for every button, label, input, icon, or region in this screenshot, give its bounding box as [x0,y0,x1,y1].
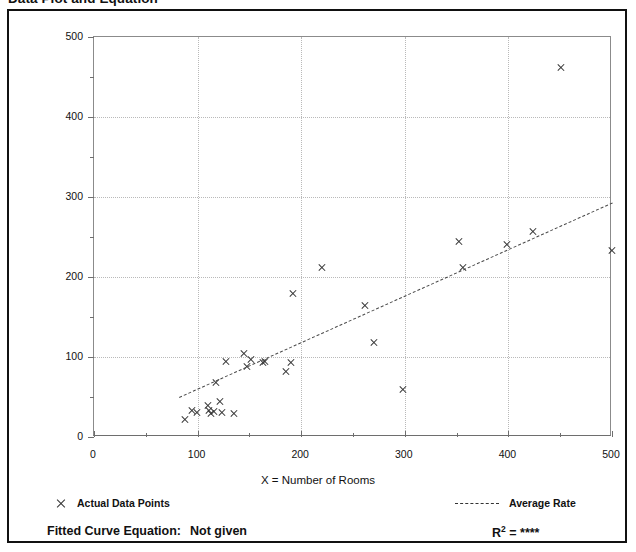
x-axis-tick-label: 100 [167,448,227,460]
x-axis-minor-tick [353,433,354,437]
equation-value: Not given [190,524,247,538]
x-axis-minor-tick [146,433,147,437]
x-axis-tick [301,431,302,437]
y-axis-tick-label: 500 [45,30,83,42]
x-axis-tick-label: 0 [63,448,123,460]
equation-label: Fitted Curve Equation: [47,524,181,538]
data-point-marker [229,409,238,418]
y-axis-tick [88,357,94,358]
x-cross-marker-icon [55,498,66,509]
data-point-marker [192,408,201,417]
x-axis-tick [405,431,406,437]
y-axis-minor-tick [90,317,94,318]
y-axis-tick [88,437,94,438]
fitted-curve-equation: Fitted Curve Equation:Not given [47,524,247,538]
plot-area [93,36,611,436]
data-point-marker [369,338,378,347]
dashed-line-icon [455,503,499,504]
y-axis-minor-tick [90,397,94,398]
x-axis-tick-label: 200 [270,448,330,460]
y-axis-tick-label: 400 [45,110,83,122]
data-point-marker [281,367,290,376]
x-axis-minor-tick [249,433,250,437]
x-axis-tick [94,431,95,437]
legend-label-data-points: Actual Data Points [77,497,170,509]
data-point-marker [317,263,326,272]
data-point-marker [398,385,407,394]
y-axis-minor-tick [90,237,94,238]
x-axis-tick [198,431,199,437]
gridline-vertical [508,37,509,435]
y-axis-tick [88,37,94,38]
r-squared-value: R2 = **** [492,524,539,540]
screenshot-root: Data Plot and Equation T = Average Vehic… [0,0,636,552]
gridline-horizontal [94,197,610,198]
legend-item-average-rate: Average Rate [455,497,576,509]
data-point-marker [216,397,225,406]
x-axis-minor-tick [560,433,561,437]
y-axis-tick [88,197,94,198]
y-axis-tick-label: 100 [45,350,83,362]
r2-stars: **** [520,526,539,540]
y-axis-minor-tick [90,157,94,158]
data-point-marker [608,246,617,255]
data-point-marker [288,289,297,298]
data-point-marker [557,63,566,72]
average-rate-trend-line [179,203,612,398]
y-axis-tick-label: 300 [45,190,83,202]
x-axis-tick [508,431,509,437]
data-point-marker [218,408,227,417]
y-axis-tick-label: 200 [45,270,83,282]
data-point-marker [454,237,463,246]
gridline-vertical [405,37,406,435]
x-axis-title: X = Number of Rooms [0,474,636,486]
data-point-marker [221,357,230,366]
gridline-horizontal [94,277,610,278]
legend-item-data-points: Actual Data Points [55,497,170,509]
data-point-marker [529,227,538,236]
x-axis-tick-label: 300 [374,448,434,460]
gridline-vertical [198,37,199,435]
r2-label: R [492,526,501,540]
gridline-vertical [301,37,302,435]
chart-legend: Actual Data Points Average Rate [0,497,636,515]
y-axis-tick [88,117,94,118]
y-axis-tick [88,277,94,278]
r2-equals: = [506,526,520,540]
data-point-marker [361,301,370,310]
gridline-horizontal [94,357,610,358]
y-axis-tick-label: 0 [45,430,83,442]
chart-container: T = Average Vehicle Trip Ends X = Number… [0,0,636,552]
y-axis-minor-tick [90,77,94,78]
x-axis-minor-tick [457,433,458,437]
gridline-horizontal [94,117,610,118]
data-point-marker [181,415,190,424]
chart-footer: Fitted Curve Equation:Not given R2 = ***… [0,524,636,546]
x-axis-tick-label: 400 [477,448,537,460]
x-axis-tick [612,431,613,437]
data-point-marker [286,358,295,367]
legend-label-average-rate: Average Rate [509,497,576,509]
x-axis-tick-label: 500 [581,448,636,460]
